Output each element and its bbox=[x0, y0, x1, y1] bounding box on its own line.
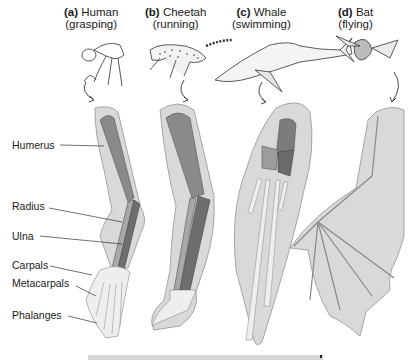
whale-flipper bbox=[234, 103, 312, 345]
panel-caption-whale: (c) Whale (swimming) bbox=[232, 6, 291, 30]
panel-caption-cheetah: (b) Cheetah (running) bbox=[145, 6, 206, 30]
whale-figure-icon bbox=[215, 38, 354, 92]
bottom-bar-marker bbox=[320, 355, 322, 358]
label-phalanges: Phalanges bbox=[12, 310, 62, 321]
label-ulna: Ulna bbox=[12, 231, 34, 242]
human-limb bbox=[86, 107, 145, 338]
cheetah-figure-icon bbox=[150, 40, 232, 78]
panel-caption-human: (a) Human (grasping) bbox=[64, 6, 118, 30]
label-metacarpals: Metacarpals bbox=[12, 278, 69, 289]
label-humerus: Humerus bbox=[12, 140, 55, 151]
human-figure-icon bbox=[82, 43, 124, 86]
label-radius: Radius bbox=[12, 201, 45, 212]
label-carpals: Carpals bbox=[12, 260, 48, 271]
bottom-caption-bar bbox=[88, 355, 323, 360]
homologous-limbs-artwork bbox=[0, 0, 413, 360]
panel-caption-bat: (d) Bat (flying) bbox=[338, 6, 373, 30]
cheetah-limb bbox=[152, 104, 215, 330]
